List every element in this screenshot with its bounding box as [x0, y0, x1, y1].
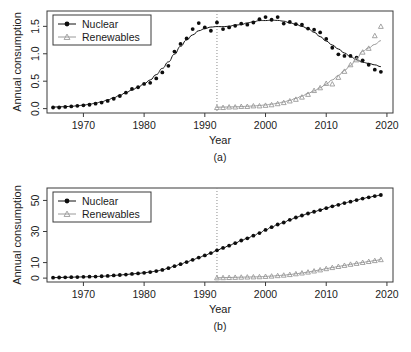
legend-marker-nuclear: [65, 22, 70, 27]
data-point-nuclear: [251, 21, 255, 25]
y-tick-label: 50: [29, 194, 41, 206]
data-point-nuclear: [288, 20, 292, 24]
data-point-nuclear: [264, 15, 268, 19]
x-tick-label: 2020: [375, 288, 399, 300]
data-point-renewables: [372, 33, 377, 37]
data-point-renewables: [215, 275, 220, 279]
data-point-nuclear: [136, 272, 140, 276]
data-point-nuclear: [179, 42, 183, 46]
x-tick-label: 2010: [315, 119, 339, 131]
data-point-nuclear: [112, 97, 116, 101]
data-point-nuclear: [355, 198, 359, 202]
data-point-nuclear: [69, 275, 73, 279]
x-tick-label: 1990: [193, 119, 217, 131]
y-axis-label: Annual consumption: [11, 12, 23, 112]
x-tick-label: 2000: [254, 119, 278, 131]
data-point-nuclear: [233, 24, 237, 28]
data-point-nuclear: [136, 85, 140, 89]
x-tick-label: 1990: [193, 288, 217, 300]
data-point-nuclear: [324, 206, 328, 210]
chart-panel-a: 1970198019902000201020200.00.51.01.5Year…: [0, 0, 411, 176]
panel-caption: (a): [214, 151, 227, 163]
data-point-nuclear: [82, 275, 86, 279]
data-point-nuclear: [148, 81, 152, 85]
data-point-renewables: [312, 88, 317, 92]
data-point-nuclear: [318, 30, 322, 34]
data-point-renewables: [378, 24, 383, 28]
data-point-nuclear: [336, 52, 340, 56]
panel-caption: (b): [214, 320, 227, 332]
data-point-nuclear: [124, 273, 128, 277]
data-point-nuclear: [167, 266, 171, 270]
data-point-nuclear: [239, 22, 243, 26]
legend-label-nuclear: Nuclear: [82, 195, 119, 207]
data-point-nuclear: [306, 212, 310, 216]
y-tick-label: 30: [29, 226, 41, 238]
data-point-nuclear: [94, 275, 98, 279]
chart-panel-b: 1970198019902000201020200103050YearAnnua…: [0, 176, 411, 352]
data-point-nuclear: [106, 274, 110, 278]
x-tick-label: 1980: [132, 288, 156, 300]
data-point-nuclear: [361, 58, 365, 62]
data-point-nuclear: [312, 28, 316, 32]
data-point-nuclear: [51, 106, 55, 110]
data-point-nuclear: [373, 194, 377, 198]
data-point-nuclear: [324, 37, 328, 41]
data-point-nuclear: [312, 210, 316, 214]
y-tick-label: 1.0: [29, 46, 41, 61]
data-point-nuclear: [239, 239, 243, 243]
data-point-nuclear: [282, 221, 286, 225]
data-point-nuclear: [82, 103, 86, 107]
data-point-nuclear: [221, 27, 225, 31]
data-point-nuclear: [75, 275, 79, 279]
data-point-nuclear: [148, 270, 152, 274]
y-tick-label: 0.5: [29, 74, 41, 89]
data-point-nuclear: [185, 37, 189, 41]
data-point-nuclear: [51, 276, 55, 280]
legend-label-renewables: Renewables: [82, 31, 140, 43]
data-point-nuclear: [300, 214, 304, 218]
data-point-nuclear: [191, 27, 195, 31]
data-point-nuclear: [233, 241, 237, 245]
data-point-nuclear: [154, 77, 158, 81]
data-point-nuclear: [100, 101, 104, 105]
legend-marker-nuclear: [65, 199, 70, 204]
figure-container: 1970198019902000201020200.00.51.01.5Year…: [0, 0, 411, 352]
x-tick-label: 1980: [132, 119, 156, 131]
data-point-nuclear: [306, 27, 310, 31]
data-point-nuclear: [142, 271, 146, 275]
data-point-nuclear: [203, 26, 207, 30]
data-point-nuclear: [294, 216, 298, 220]
y-tick-label: 0: [29, 275, 41, 281]
data-point-nuclear: [264, 228, 268, 232]
data-point-nuclear: [173, 264, 177, 268]
data-point-nuclear: [336, 203, 340, 207]
data-point-nuclear: [142, 82, 146, 86]
x-axis-label: Year: [209, 134, 232, 146]
data-point-nuclear: [112, 274, 116, 278]
data-point-nuclear: [179, 262, 183, 266]
x-tick-label: 2010: [315, 288, 339, 300]
data-point-nuclear: [154, 269, 158, 273]
legend-label-nuclear: Nuclear: [82, 18, 119, 30]
data-point-nuclear: [209, 29, 213, 33]
y-tick-label: 0.0: [29, 101, 41, 116]
panel-a-svg: 1970198019902000201020200.00.51.01.5Year…: [0, 0, 411, 176]
y-tick-label: 10: [29, 257, 41, 269]
data-point-nuclear: [215, 248, 219, 252]
data-point-nuclear: [245, 236, 249, 240]
y-axis-label: Annual consumption: [11, 185, 23, 285]
data-point-nuclear: [63, 105, 67, 109]
data-point-nuclear: [215, 21, 219, 25]
data-point-nuclear: [209, 251, 213, 255]
x-tick-label: 1970: [72, 288, 96, 300]
data-point-nuclear: [379, 70, 383, 74]
data-point-nuclear: [367, 195, 371, 199]
data-point-nuclear: [94, 102, 98, 106]
data-point-renewables: [324, 81, 329, 85]
data-point-nuclear: [173, 50, 177, 54]
data-point-renewables: [330, 82, 335, 86]
data-point-nuclear: [288, 218, 292, 222]
data-point-nuclear: [160, 268, 164, 272]
data-point-nuclear: [318, 208, 322, 212]
